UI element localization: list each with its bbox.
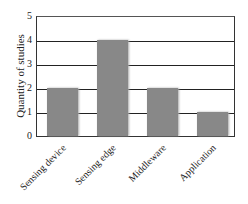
plot-area xyxy=(36,16,235,137)
x-label-sensing-edge: Sensing edge xyxy=(72,142,117,187)
bar-application xyxy=(197,112,228,136)
bar-sensing-edge xyxy=(97,40,128,136)
y-tick-1: 1 xyxy=(24,106,32,117)
bar-chart: Quantity of studies 5 4 3 2 1 0 Sensing … xyxy=(0,0,248,204)
x-label-middleware: Middleware xyxy=(126,142,168,184)
x-label-application: Application xyxy=(177,142,218,183)
y-tick-4: 4 xyxy=(24,34,32,45)
bar-middleware xyxy=(147,88,178,136)
bar-sensing-device xyxy=(47,88,78,136)
gridline-4 xyxy=(37,41,234,42)
y-tick-2: 2 xyxy=(24,82,32,93)
x-label-sensing-device: Sensing device xyxy=(17,142,67,192)
y-tick-3: 3 xyxy=(24,58,32,69)
gridline-3 xyxy=(37,65,234,66)
y-tick-0: 0 xyxy=(24,130,32,141)
y-tick-5: 5 xyxy=(24,10,32,21)
